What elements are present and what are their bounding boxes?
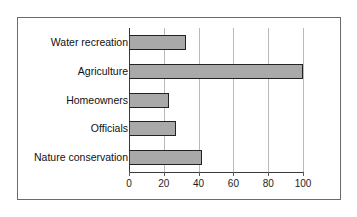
plot-area xyxy=(129,28,303,172)
category-label: Homeowners xyxy=(66,93,128,108)
x-tick-label-80: 80 xyxy=(253,178,283,190)
category-label: Officials xyxy=(91,121,128,136)
bar[interactable] xyxy=(129,64,303,79)
gridline-60 xyxy=(233,28,234,172)
x-axis-line xyxy=(129,172,304,173)
bar[interactable] xyxy=(129,150,202,165)
x-tick-mark-0 xyxy=(129,172,130,176)
x-tick-mark-80 xyxy=(268,172,269,176)
x-tick-mark-40 xyxy=(199,172,200,176)
x-tick-label-40: 40 xyxy=(184,178,214,190)
bar[interactable] xyxy=(129,35,186,50)
x-tick-label-60: 60 xyxy=(218,178,248,190)
x-tick-label-0: 0 xyxy=(114,178,144,190)
category-label: Nature conservation xyxy=(34,150,128,165)
gridline-80 xyxy=(268,28,269,172)
bar[interactable] xyxy=(129,121,176,136)
x-tick-mark-100 xyxy=(303,172,304,176)
chart-container: 020406080100 Water recreationAgriculture… xyxy=(0,0,357,217)
category-label: Agriculture xyxy=(78,64,128,79)
x-tick-label-20: 20 xyxy=(149,178,179,190)
bar[interactable] xyxy=(129,93,169,108)
gridline-100 xyxy=(303,28,304,172)
x-tick-label-100: 100 xyxy=(288,178,318,190)
category-label: Water recreation xyxy=(51,35,128,50)
x-tick-mark-60 xyxy=(233,172,234,176)
x-tick-mark-20 xyxy=(164,172,165,176)
y-axis-line xyxy=(129,28,130,176)
